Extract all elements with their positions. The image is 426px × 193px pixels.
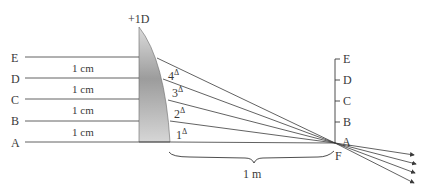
distance-brace [169,151,334,163]
lens-shape [139,27,170,142]
scale-label-a: A [342,135,351,149]
spacing-label: 1 cm [72,126,94,138]
diverging-rays [335,143,416,183]
ray-label-d: D [11,72,20,86]
spacing-label: 1 cm [72,104,94,116]
scale-label-d: D [343,73,352,87]
ray-label-b: B [11,114,19,128]
ray-label-a: A [11,136,20,150]
distance-label: 1 m [243,167,262,181]
scale-label-e: E [343,52,350,66]
scale-label-b: B [343,115,351,129]
ray-label-e: E [11,51,18,65]
scale-label-c: C [343,94,351,108]
deviation-4: 4Δ [168,68,179,83]
deviation-2: 2Δ [174,106,185,121]
prism-deviation-labels: 1Δ 2Δ 3Δ 4Δ [168,68,187,142]
ray-label-c: C [11,93,19,107]
lens-power-label: +1D [128,12,150,26]
spacing-label: 1 cm [72,62,94,74]
prism-diagram: +1D A B C D E 1 cm 1 cm 1 cm 1 cm 1Δ 2Δ … [0,0,426,193]
deviation-1: 1Δ [176,127,187,142]
spacing-label: 1 cm [72,83,94,95]
focal-point-label: F [335,149,342,163]
focal-plane-scale [335,59,340,143]
deviation-3: 3Δ [172,85,183,100]
